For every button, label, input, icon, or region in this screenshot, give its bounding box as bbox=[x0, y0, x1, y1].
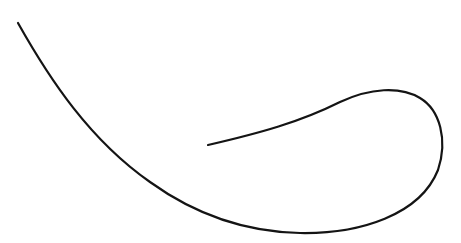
background bbox=[0, 0, 461, 243]
drawing-canvas bbox=[0, 0, 461, 243]
